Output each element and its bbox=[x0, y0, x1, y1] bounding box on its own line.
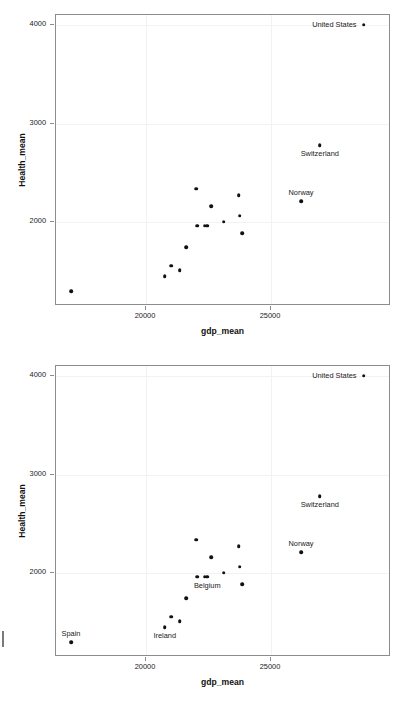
data-point bbox=[184, 597, 188, 601]
data-point bbox=[240, 583, 244, 587]
gridline-vertical-20000 bbox=[146, 15, 147, 304]
data-point bbox=[299, 550, 303, 554]
data-point bbox=[299, 199, 303, 203]
y-tick-mark bbox=[50, 572, 54, 573]
data-point bbox=[209, 205, 213, 209]
data-point bbox=[178, 269, 182, 273]
page-edge-artifact bbox=[2, 631, 4, 647]
y-tick-label: 2000 bbox=[30, 568, 46, 575]
plot-area: United StatesSwitzerlandNorwaySpainIrela… bbox=[55, 365, 390, 656]
x-tick-label: 20000 bbox=[135, 663, 156, 670]
point-label-norway: Norway bbox=[288, 189, 313, 196]
x-tick-mark bbox=[145, 306, 146, 310]
data-point bbox=[194, 538, 198, 542]
gridline-vertical-20000 bbox=[146, 366, 147, 655]
x-tick-label: 25000 bbox=[260, 663, 281, 670]
y-tick-mark bbox=[50, 375, 54, 376]
point-label-spain: Spain bbox=[62, 630, 81, 637]
data-point bbox=[163, 626, 167, 630]
plot-area: United StatesSwitzerlandNorway bbox=[55, 14, 390, 305]
point-label-norway: Norway bbox=[288, 540, 313, 547]
gridline-vertical-25000 bbox=[271, 366, 272, 655]
y-tick-label: 4000 bbox=[30, 371, 46, 378]
x-axis-title: gdp_mean bbox=[201, 678, 244, 687]
data-point bbox=[195, 224, 199, 228]
data-point bbox=[238, 565, 242, 569]
x-tick-label: 25000 bbox=[260, 312, 281, 319]
y-tick-label: 3000 bbox=[30, 470, 46, 477]
x-tick-mark bbox=[270, 657, 271, 661]
gridline-horizontal-3000 bbox=[56, 475, 389, 476]
data-point bbox=[194, 187, 198, 191]
data-point bbox=[205, 575, 209, 579]
data-point bbox=[169, 615, 173, 619]
x-tick-mark bbox=[145, 657, 146, 661]
y-tick-label: 2000 bbox=[30, 217, 46, 224]
data-point bbox=[237, 193, 241, 197]
y-tick-mark bbox=[50, 474, 54, 475]
y-axis-title: Health_mean bbox=[18, 133, 27, 187]
scatter-plot-figures: United StatesSwitzerlandNorway4000300020… bbox=[0, 0, 405, 702]
data-point bbox=[240, 232, 244, 236]
data-point bbox=[163, 275, 167, 279]
data-point bbox=[222, 571, 226, 575]
data-point bbox=[205, 224, 209, 228]
data-point bbox=[69, 640, 73, 644]
data-point bbox=[209, 556, 213, 560]
data-point bbox=[362, 374, 366, 378]
y-axis-title: Health_mean bbox=[18, 484, 27, 538]
y-tick-mark bbox=[50, 123, 54, 124]
data-point bbox=[222, 220, 226, 224]
data-point bbox=[169, 264, 173, 268]
data-point bbox=[184, 246, 188, 250]
point-label-united-states: United States bbox=[312, 372, 356, 379]
y-tick-mark bbox=[50, 24, 54, 25]
data-point bbox=[238, 214, 242, 218]
point-label-switzerland: Switzerland bbox=[301, 501, 339, 508]
x-tick-label: 20000 bbox=[135, 312, 156, 319]
data-point bbox=[318, 143, 322, 147]
y-tick-label: 3000 bbox=[30, 119, 46, 126]
point-label-switzerland: Switzerland bbox=[301, 150, 339, 157]
data-point bbox=[69, 289, 73, 293]
gridline-vertical-25000 bbox=[271, 15, 272, 304]
y-tick-mark bbox=[50, 221, 54, 222]
x-axis-title: gdp_mean bbox=[201, 327, 244, 336]
gridline-horizontal-3000 bbox=[56, 124, 389, 125]
x-tick-mark bbox=[270, 306, 271, 310]
scatter-figure-2: United StatesSwitzerlandNorwaySpainIrela… bbox=[0, 351, 405, 702]
data-point bbox=[362, 23, 366, 27]
scatter-figure-1: United StatesSwitzerlandNorway4000300020… bbox=[0, 0, 405, 351]
data-point bbox=[195, 575, 199, 579]
data-point bbox=[178, 620, 182, 624]
point-label-belgium: Belgium bbox=[194, 582, 221, 589]
point-label-united-states: United States bbox=[312, 21, 356, 28]
y-tick-label: 4000 bbox=[30, 20, 46, 27]
data-point bbox=[318, 494, 322, 498]
data-point bbox=[237, 544, 241, 548]
point-label-ireland: Ireland bbox=[153, 632, 176, 639]
